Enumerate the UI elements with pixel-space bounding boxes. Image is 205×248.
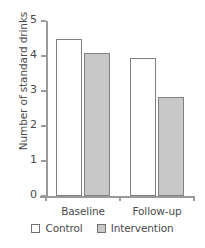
y-axis-tick-label: 4 <box>30 48 37 61</box>
x-axis-tick <box>45 196 47 201</box>
legend-swatch-icon <box>31 224 40 233</box>
x-axis-category-label: Follow-up <box>112 205 202 217</box>
x-axis-tick <box>193 196 195 201</box>
bar-baseline-control <box>56 39 82 197</box>
legend-label: Control <box>45 222 82 234</box>
legend-swatch-icon <box>97 224 106 233</box>
y-axis-title: Number of standard drinks <box>17 0 29 166</box>
y-axis-tick: 2 <box>41 125 46 127</box>
y-axis-tick-label: 1 <box>30 153 37 166</box>
bar-follow-up-control <box>130 58 156 196</box>
y-axis-tick-label: 5 <box>30 13 37 26</box>
y-axis-tick: 5 <box>41 20 46 22</box>
x-axis-line <box>40 196 194 198</box>
bar-follow-up-intervention <box>158 97 184 196</box>
y-axis-tick-label: 2 <box>30 118 37 131</box>
y-axis-tick-label: 3 <box>30 83 37 96</box>
y-axis-tick: 3 <box>41 90 46 92</box>
plot-area: 543210 BaselineFollow-up <box>46 21 194 196</box>
y-axis-tick: 1 <box>41 160 46 162</box>
chart-legend: ControlIntervention <box>0 222 205 234</box>
x-axis-tick <box>119 196 121 201</box>
legend-entry-intervention: Intervention <box>97 222 174 234</box>
y-axis-tick-label: 0 <box>30 188 37 201</box>
bar-chart-figure: Number of standard drinks 543210 Baselin… <box>0 0 205 248</box>
y-axis-tick: 4 <box>41 55 46 57</box>
y-axis-line <box>46 21 48 196</box>
legend-entry-control: Control <box>31 222 82 234</box>
bar-baseline-intervention <box>84 53 110 197</box>
legend-label: Intervention <box>111 222 174 234</box>
